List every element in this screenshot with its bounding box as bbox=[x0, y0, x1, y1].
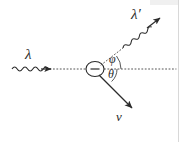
electron-recoil-angle-label: θ bbox=[108, 68, 114, 80]
scattered-photon-wave-icon bbox=[123, 27, 152, 48]
scattered-photon-arrow-icon bbox=[147, 18, 160, 28]
scattered-photon-label: λ′ bbox=[131, 7, 141, 22]
photon-scatter-angle-label: φ bbox=[109, 53, 116, 65]
diagram-canvas bbox=[0, 0, 184, 142]
compton-scattering-figure: λ λ′ φ θ v bbox=[0, 0, 184, 142]
electron-velocity-arrow-icon bbox=[99, 75, 132, 108]
phi-angle-arc bbox=[117, 56, 122, 69]
electron-velocity-label: v bbox=[116, 110, 122, 123]
page-edge-divider bbox=[178, 0, 179, 142]
incident-photon-label: λ bbox=[25, 47, 32, 62]
